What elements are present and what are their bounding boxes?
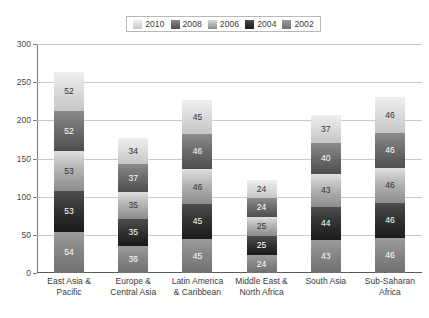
bar-segment-value: 37 [129,174,138,183]
legend-item-2010[interactable]: 2010 [133,20,164,29]
stacked-bar-chart-figure: 20102008200620042002 050100150200250300 … [0,0,429,318]
bar-group[interactable]: 3740434443 [311,115,341,273]
bar-segment[interactable]: 37 [118,164,148,192]
bar-segment-value: 45 [193,217,202,226]
bar-segment-value: 24 [257,260,266,269]
bar-segment[interactable]: 46 [375,97,405,132]
y-tick-label-50: 50 [3,231,31,240]
bar-segment-value: 52 [64,127,73,136]
x-axis-label-line: Latin America [165,276,229,287]
bar-segment[interactable]: 37 [311,115,341,143]
bar-segment-value: 46 [385,216,394,225]
bar-group[interactable]: 4546464545 [182,100,212,273]
legend-swatch-2006 [208,20,217,29]
bar-segment[interactable]: 52 [54,72,84,112]
bar-segment-value: 37 [321,125,330,134]
bar-segment[interactable]: 24 [247,180,277,198]
bar-segment-value: 24 [257,203,266,212]
bar-segment-value: 25 [257,241,266,250]
bar-segment[interactable]: 24 [247,198,277,216]
bar-segment-value: 54 [64,248,73,257]
bar-segment[interactable]: 45 [182,239,212,273]
bar-segment-value: 46 [385,146,394,155]
bar-segment[interactable]: 40 [311,143,341,174]
bar-segment[interactable]: 35 [118,192,148,219]
x-axis-label-line: Pacific [37,287,101,298]
bar-segment-value: 52 [64,87,73,96]
x-axis-label-0: East Asia &Pacific [37,276,101,298]
bar-segment[interactable]: 35 [118,219,148,246]
bar-segment-value: 35 [129,201,138,210]
legend-item-2006[interactable]: 2006 [208,20,239,29]
plot-area: 050100150200250300 525253535434373535364… [37,44,422,273]
bar-segment[interactable]: 45 [182,204,212,238]
bar-segment[interactable]: 46 [375,238,405,273]
bar-segment[interactable]: 52 [54,111,84,151]
x-axis-label-line: North Africa [230,287,294,298]
bar-segment[interactable]: 24 [247,255,277,273]
bar-segment-value: 46 [385,251,394,260]
bars-container: 5252535354343735353645464645452424252524… [37,44,422,273]
bar-segment[interactable]: 46 [182,134,212,169]
legend-label-2002: 2002 [294,20,313,29]
legend-label-2006: 2006 [220,20,239,29]
y-tick-label-0: 0 [3,269,31,278]
bar-segment-value: 43 [321,252,330,261]
bar-segment-value: 44 [321,219,330,228]
legend-label-2004: 2004 [257,20,276,29]
bar-segment[interactable]: 36 [118,246,148,273]
bar-segment[interactable]: 43 [311,240,341,273]
y-tick-mark-0 [33,273,37,274]
legend-item-2008[interactable]: 2008 [171,20,202,29]
bar-segment[interactable]: 25 [247,217,277,236]
x-axis-label-2: Latin America& Caribbean [165,276,229,298]
y-tick-label-150: 150 [3,155,31,164]
chart-legend: 20102008200620042002 [126,16,321,32]
x-axis-label-1: Europe &Central Asia [101,276,165,298]
x-axis-label-5: Sub-SaharanAfrica [358,276,422,298]
bar-segment-value: 53 [64,207,73,216]
bar-segment-value: 45 [193,113,202,122]
bar-segment[interactable]: 25 [247,236,277,255]
bar-segment[interactable]: 43 [311,174,341,207]
bar-segment-value: 46 [193,147,202,156]
bar-segment[interactable]: 46 [375,203,405,238]
x-axis-label-line: Europe & [101,276,165,287]
legend-swatch-2004 [245,20,254,29]
bar-group[interactable]: 4646464646 [375,97,405,273]
bar-group[interactable]: 5252535354 [54,72,84,274]
x-axis-label-line: Central Asia [101,287,165,298]
x-axis-label-line: Sub-Saharan [358,276,422,287]
bar-segment-value: 35 [129,228,138,237]
legend-swatch-2008 [171,20,180,29]
bar-segment[interactable]: 44 [311,207,341,241]
bar-segment[interactable]: 45 [182,100,212,134]
x-axis-label-4: South Asia [294,276,358,287]
x-axis-label-3: Middle East &North Africa [230,276,294,298]
bar-segment-value: 53 [64,167,73,176]
bar-segment[interactable]: 54 [54,232,84,273]
bar-segment[interactable]: 46 [182,169,212,204]
bar-segment[interactable]: 46 [375,168,405,203]
bar-segment[interactable]: 53 [54,151,84,191]
legend-swatch-2002 [282,20,291,29]
legend-label-2008: 2008 [183,20,202,29]
legend-item-2004[interactable]: 2004 [245,20,276,29]
y-tick-label-200: 200 [3,116,31,125]
bar-segment-value: 40 [321,154,330,163]
bar-segment-value: 36 [129,255,138,264]
x-axis-label-line: Middle East & [230,276,294,287]
legend-swatch-2010 [133,20,142,29]
bar-segment[interactable]: 53 [54,191,84,231]
bar-segment-value: 46 [193,183,202,192]
bar-segment-value: 34 [129,147,138,156]
bar-group[interactable]: 2424252524 [247,180,277,273]
bar-group[interactable]: 3437353536 [118,138,148,273]
bar-segment-value: 43 [321,186,330,195]
y-tick-label-300: 300 [3,40,31,49]
bar-segment[interactable]: 46 [375,133,405,168]
legend-item-2002[interactable]: 2002 [282,20,313,29]
x-axis-category-labels: East Asia &PacificEurope &Central AsiaLa… [37,276,422,302]
legend-label-2010: 2010 [145,20,164,29]
bar-segment[interactable]: 34 [118,138,148,164]
